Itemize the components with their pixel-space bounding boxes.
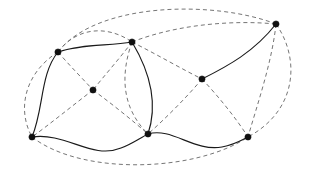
graph-edge-dashed-v3-v8 <box>248 24 291 137</box>
graph-edge-dashed-v1-v4 <box>58 52 93 90</box>
graph-edge-solid-v1-v6 <box>32 52 58 137</box>
graph-edge-dashed-v5-v7 <box>148 79 202 134</box>
graph-vertex-v3 <box>273 21 279 27</box>
graph-edge-solid-v2-v7 <box>132 42 152 134</box>
graph-edge-dashed-v1-v6 <box>24 52 58 137</box>
graph-edge-dashed-v2-v3 <box>132 23 276 42</box>
dashed-edge-group <box>24 9 290 165</box>
graph-edge-dashed-v2-v7 <box>125 42 148 134</box>
graph-vertex-v6 <box>29 134 35 140</box>
graph-edge-dashed-v3-v8 <box>248 24 276 137</box>
graph-vertex-v5 <box>199 76 205 82</box>
graph-edge-dashed-v4-v6 <box>32 90 93 137</box>
graph-edge-solid-v5-v3 <box>202 24 276 79</box>
solid-edge-group <box>32 24 276 151</box>
graph-vertex-v4 <box>90 87 96 93</box>
graph-vertex-v8 <box>245 134 251 140</box>
graph-vertex-v1 <box>55 49 61 55</box>
graph-edge-solid-v1-v2 <box>58 42 132 52</box>
graph-canvas <box>0 0 316 176</box>
graph-vertex-v7 <box>145 131 151 137</box>
graph-vertex-v2 <box>129 39 135 45</box>
graph-edge-dashed-v4-v7 <box>93 90 148 134</box>
graph-figure <box>0 0 316 176</box>
vertex-group <box>29 21 279 140</box>
graph-edge-dashed-v6-v8 <box>32 137 248 165</box>
graph-edge-dashed-v5-v8 <box>202 79 248 137</box>
graph-edge-dashed-v2-v5 <box>132 42 202 79</box>
graph-edge-solid-v6-v7 <box>32 134 148 151</box>
